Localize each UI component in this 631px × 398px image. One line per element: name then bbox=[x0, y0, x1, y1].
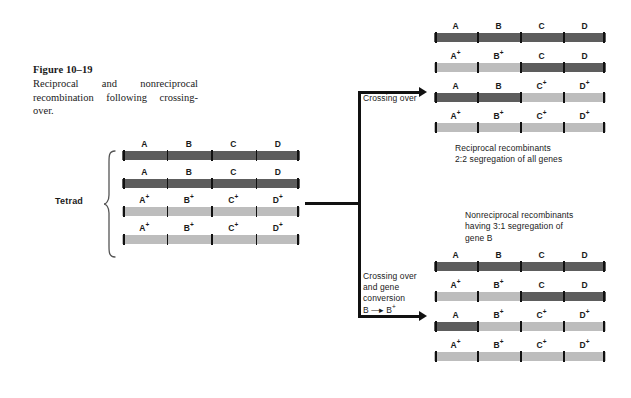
chromatid-wrapper: ABCD bbox=[122, 179, 300, 189]
lower-branch-label: Crossing overand geneconversionB —▸ B+ bbox=[363, 271, 417, 316]
allele-label-D: D bbox=[581, 250, 587, 260]
chromatid-row: ABCD bbox=[434, 33, 606, 43]
chromatid-wrapper: AB+C+D+ bbox=[434, 322, 606, 332]
chromatid-segment-B bbox=[167, 151, 212, 160]
chromatid-row: A+B+CD bbox=[434, 63, 606, 73]
tetrad-brace bbox=[103, 150, 117, 262]
chromatid-segment-Bplus bbox=[167, 235, 212, 244]
product-1 bbox=[434, 33, 606, 42]
allele-label-D: D bbox=[581, 21, 587, 31]
chromatid-segment-D bbox=[256, 179, 301, 188]
chromatid-wrapper: A+B+CD bbox=[434, 63, 606, 73]
chromatid-segment-Dplus bbox=[563, 352, 606, 361]
upper-branch-label: Crossing over bbox=[363, 93, 417, 104]
chromatid-wrapper: A+B+C+D+ bbox=[122, 235, 300, 245]
chromatid-segment-D bbox=[563, 262, 606, 271]
allele-label-A: A bbox=[452, 21, 458, 31]
product-4 bbox=[434, 352, 606, 361]
chromatid-segment-Aplus bbox=[434, 292, 477, 301]
allele-label-Aplus: A+ bbox=[139, 195, 149, 205]
allele-label-B: B bbox=[495, 250, 501, 260]
chromatid-row: ABCD bbox=[122, 179, 300, 189]
chromatid-row: AB+C+D+ bbox=[434, 322, 606, 332]
caption-line: gene B bbox=[465, 233, 573, 244]
chromatid-wrapper: ABC+D+ bbox=[434, 93, 606, 103]
chromatid-segment-Dplus bbox=[256, 235, 301, 244]
allele-label-A: A bbox=[141, 139, 147, 149]
chromatid-segment-Aplus bbox=[122, 207, 167, 216]
allele-label-Aplus: A+ bbox=[139, 223, 149, 233]
allele-label-Aplus: A+ bbox=[450, 340, 460, 350]
allele-label-row: ABCD bbox=[434, 21, 606, 32]
allele-label-C: C bbox=[230, 167, 236, 177]
allele-label-row: ABCD bbox=[122, 139, 300, 150]
caption-line: Reciprocal recombinants bbox=[455, 143, 562, 154]
allele-label-B: B bbox=[495, 81, 501, 91]
allele-label-Cplus: C+ bbox=[228, 223, 238, 233]
allele-label-Dplus: D+ bbox=[579, 340, 589, 350]
caption-line: Nonreciprocal recombinants bbox=[465, 210, 573, 221]
chromatid-segment-B bbox=[477, 93, 520, 102]
chromatid-wrapper: A+B+C+D+ bbox=[434, 352, 606, 362]
caption-line: having 3:1 segregation of bbox=[465, 221, 573, 232]
chromatid-segment-Bplus bbox=[477, 292, 520, 301]
chromatid-wrapper: A+B+CD bbox=[434, 292, 606, 302]
chromatid-segment-Cplus bbox=[520, 322, 563, 331]
allele-label-row: A+B+C+D+ bbox=[122, 223, 300, 234]
chromatid-wrapper: A+B+C+D+ bbox=[434, 123, 606, 133]
allele-label-Cplus: C+ bbox=[536, 310, 546, 320]
gene-conversion-notation: B —▸ B+ bbox=[363, 305, 396, 316]
allele-label-B: B bbox=[186, 167, 192, 177]
chromatid-segment-A bbox=[122, 179, 167, 188]
allele-label-Aplus: A+ bbox=[450, 111, 460, 121]
allele-label-Bplus: B+ bbox=[493, 310, 503, 320]
chromatid-row: A+B+CD bbox=[434, 292, 606, 302]
chromatid-segment-A bbox=[434, 93, 477, 102]
chromatid-segment-Cplus bbox=[211, 235, 256, 244]
trunk-horizontal-line bbox=[305, 202, 360, 205]
allele-label-row: A+B+C+D+ bbox=[434, 111, 606, 122]
product-3 bbox=[434, 322, 606, 331]
product-3 bbox=[434, 93, 606, 102]
chromatid-segment-C bbox=[520, 292, 563, 301]
allele-label-C: C bbox=[538, 250, 544, 260]
product-2 bbox=[434, 292, 606, 301]
upper-branch-arrow-icon bbox=[419, 87, 427, 97]
allele-label-Dplus: D+ bbox=[579, 310, 589, 320]
allele-label-Cplus: C+ bbox=[536, 81, 546, 91]
chromatid-segment-Bplus bbox=[477, 63, 520, 72]
allele-label-Bplus: B+ bbox=[493, 51, 503, 61]
chromatid-segment-B bbox=[477, 262, 520, 271]
figure-number: Figure 10–19 bbox=[33, 63, 198, 76]
allele-label-Aplus: A+ bbox=[450, 51, 460, 61]
allele-label-row: A+B+CD bbox=[434, 51, 606, 62]
chromatid-segment-Bplus bbox=[477, 123, 520, 132]
chromatid-segment-Dplus bbox=[563, 93, 606, 102]
chromatid-segment-Cplus bbox=[211, 207, 256, 216]
chromatid-row: A+B+C+D+ bbox=[122, 235, 300, 245]
allele-label-row: AB+C+D+ bbox=[434, 310, 606, 321]
chromatid-segment-Cplus bbox=[520, 93, 563, 102]
allele-label-A: A bbox=[141, 167, 147, 177]
allele-label-Aplus: A+ bbox=[450, 280, 460, 290]
allele-label-row: ABC+D+ bbox=[434, 81, 606, 92]
allele-label-row: A+B+C+D+ bbox=[434, 340, 606, 351]
allele-label-C: C bbox=[538, 51, 544, 61]
figure-caption: Figure 10–19 Reciprocal and nonreciproca… bbox=[33, 63, 198, 118]
allele-label-Bplus: B+ bbox=[493, 340, 503, 350]
allele-label-row: ABCD bbox=[434, 250, 606, 261]
allele-label-Bplus: B+ bbox=[184, 223, 194, 233]
product-1 bbox=[434, 262, 606, 271]
allele-label-D: D bbox=[581, 51, 587, 61]
chromatid-segment-A bbox=[122, 151, 167, 160]
chromatid-wrapper: ABCD bbox=[122, 151, 300, 161]
chromatid-1 bbox=[122, 151, 300, 160]
chromatid-segment-Aplus bbox=[122, 235, 167, 244]
chromatid-wrapper: ABCD bbox=[434, 33, 606, 43]
chromatid-3 bbox=[122, 207, 300, 216]
chromatid-segment-A bbox=[434, 33, 477, 42]
chromatid-segment-D bbox=[563, 292, 606, 301]
allele-label-Dplus: D+ bbox=[579, 81, 589, 91]
allele-label-B: B bbox=[186, 139, 192, 149]
chromatid-segment-C bbox=[211, 151, 256, 160]
